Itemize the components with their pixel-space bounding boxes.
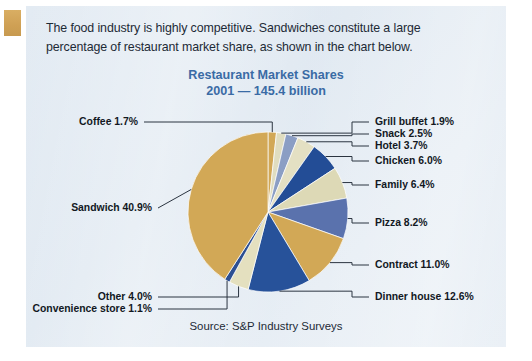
slice-label-grill-buffet: Grill buffet 1.9%: [375, 116, 454, 127]
slice-label-contract: Contract 11.0%: [375, 259, 450, 270]
slice-label-sandwich: Sandwich 40.9%: [71, 202, 152, 213]
slice-label-coffee: Coffee 1.7%: [79, 116, 138, 127]
slice-label-convenience-store: Convenience store 1.1%: [32, 303, 152, 314]
slice-label-dinner-house: Dinner house 12.6%: [375, 291, 474, 302]
leader-contract: [330, 263, 369, 265]
slice-label-hotel: Hotel 3.7%: [375, 140, 428, 151]
slice-label-family: Family 6.4%: [375, 179, 435, 190]
slice-label-pizza: Pizza 8.2%: [375, 217, 428, 228]
leader-family: [342, 183, 369, 185]
leader-sandwich: [158, 189, 191, 208]
chart-source: Source: S&P Industry Surveys: [26, 320, 506, 332]
leader-snack: [292, 134, 369, 136]
leader-hotel: [306, 142, 369, 146]
slice-label-chicken: Chicken 6.0%: [375, 155, 442, 166]
leader-chicken: [326, 157, 369, 161]
pie-chart: Grill buffet 1.9%Snack 2.5%Hotel 3.7%Chi…: [0, 0, 532, 361]
leader-pizza: [348, 219, 369, 223]
leader-coffee: [144, 122, 272, 132]
page-root: The food industry is highly competitive.…: [0, 0, 532, 361]
slice-label-other: Other 4.0%: [98, 291, 152, 302]
leader-dinner-house: [280, 291, 369, 297]
leader-convenience-store: [158, 281, 227, 309]
pie-slices: [188, 132, 348, 292]
slice-label-snack: Snack 2.5%: [375, 128, 432, 139]
leader-other: [158, 286, 239, 297]
leader-grill-buffet: [281, 122, 369, 133]
